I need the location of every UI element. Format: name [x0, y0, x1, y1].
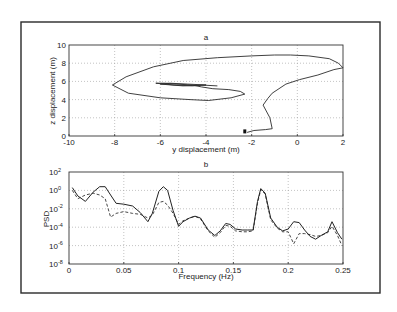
panel-b-solid-psd-line [72, 187, 342, 240]
panel-a-trajectory-plot: a -10-8-6-4-202 0246810 y displacement (… [48, 33, 346, 154]
y-tick-exponent: 2 [58, 167, 61, 173]
y-tick-label: 6 [62, 77, 67, 86]
x-tick-label: 2 [341, 138, 346, 147]
panel-b-axes [69, 172, 343, 264]
x-tick-label: 0 [295, 138, 300, 147]
panel-a-y-ticks: 0246810 [57, 41, 66, 141]
y-tick-label: 4 [62, 96, 67, 105]
panel-b-title: b [204, 160, 209, 169]
panel-b-psd-plot: b 00.050.10.150.20.25 10210010-210-410-6… [42, 160, 351, 281]
y-tick-exponent: -6 [58, 240, 63, 246]
y-tick-label: 8 [62, 59, 67, 68]
x-tick-label: -8 [111, 138, 119, 147]
panel-a-ylabel: z displacement (m) [48, 57, 57, 125]
figure: a -10-8-6-4-202 0246810 y displacement (… [0, 0, 397, 312]
y-tick-label: 10 [57, 41, 66, 50]
x-tick-label: 0.05 [116, 266, 132, 275]
panel-b-xlabel: Frequency (Hz) [178, 272, 233, 281]
y-tick-label: 0 [62, 132, 67, 141]
panel-a-trajectory-line [112, 55, 343, 132]
panel-b-ylabel: PSD [42, 211, 51, 228]
panel-a-title: a [204, 33, 209, 42]
y-tick-exponent: -8 [58, 259, 63, 265]
y-tick-exponent: 0 [58, 185, 61, 191]
x-tick-label: -6 [157, 138, 165, 147]
figure-frame [21, 22, 380, 293]
x-tick-label: -2 [248, 138, 256, 147]
panel-a-xlabel: y displacement (m) [172, 145, 240, 154]
y-tick-exponent: -2 [58, 203, 63, 209]
x-tick-label: 0.25 [335, 266, 351, 275]
x-tick-label: 0 [67, 266, 72, 275]
panel-b-grid [69, 172, 343, 264]
y-tick-label: 2 [62, 114, 67, 123]
y-tick-exponent: -4 [58, 222, 63, 228]
x-tick-label: 0.2 [283, 266, 295, 275]
start-marker [243, 129, 246, 133]
panel-b-y-ticks: 10210010-210-410-610-8 [49, 167, 63, 270]
